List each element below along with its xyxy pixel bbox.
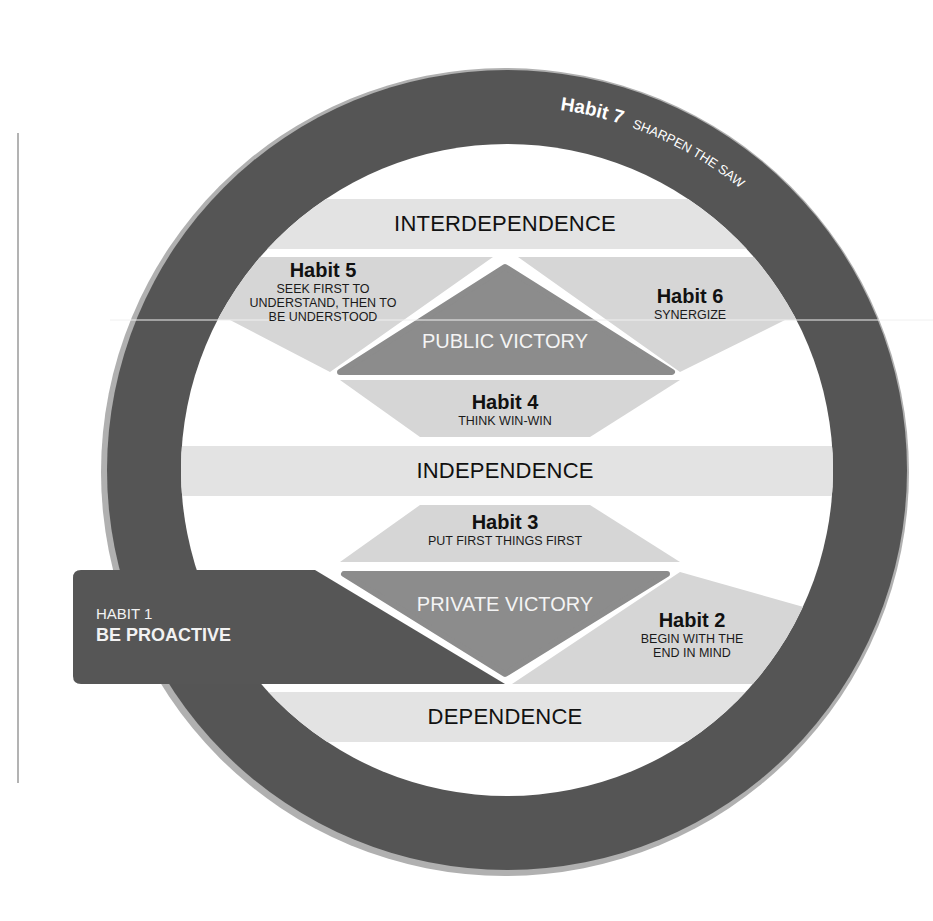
habit5-title: Habit 5 xyxy=(228,260,418,281)
independence-label: INDEPENDENCE xyxy=(305,459,705,482)
public-victory-label: PUBLIC VICTORY xyxy=(405,331,605,352)
habit3-desc: PUT FIRST THINGS FIRST xyxy=(385,535,625,549)
habit5-desc-3: BE UNDERSTOOD xyxy=(228,311,418,325)
habit6-title: Habit 6 xyxy=(610,286,770,307)
habit2-desc-2: END IN MIND xyxy=(622,647,762,661)
habit4-desc: THINK WIN-WIN xyxy=(405,415,605,429)
interdependence-label: INTERDEPENDENCE xyxy=(305,212,705,235)
habit1-desc: BE PROACTIVE xyxy=(96,625,231,646)
habit4-text: Habit 4 THINK WIN-WIN xyxy=(405,392,605,429)
private-victory-label: PRIVATE VICTORY xyxy=(400,594,610,615)
habit1-title: HABIT 1 xyxy=(96,605,231,622)
dependence-label: DEPENDENCE xyxy=(305,705,705,728)
habit1-text: HABIT 1 BE PROACTIVE xyxy=(96,605,231,646)
habit2-text: Habit 2 BEGIN WITH THE END IN MIND xyxy=(622,610,762,661)
habit6-text: Habit 6 SYNERGIZE xyxy=(610,286,770,323)
habit5-desc-1: SEEK FIRST TO xyxy=(228,283,418,297)
habit5-text: Habit 5 SEEK FIRST TO UNDERSTAND, THEN T… xyxy=(228,260,418,324)
seven-habits-diagram: Habit 7 SHARPEN THE SAW INTERDEPENDENCE … xyxy=(0,0,933,921)
habit4-title: Habit 4 xyxy=(405,392,605,413)
habit2-title: Habit 2 xyxy=(622,610,762,631)
habit6-desc: SYNERGIZE xyxy=(610,309,770,323)
habit3-text: Habit 3 PUT FIRST THINGS FIRST xyxy=(385,512,625,549)
habit3-title: Habit 3 xyxy=(385,512,625,533)
habit2-desc-1: BEGIN WITH THE xyxy=(622,633,762,647)
habit5-desc-2: UNDERSTAND, THEN TO xyxy=(228,297,418,311)
